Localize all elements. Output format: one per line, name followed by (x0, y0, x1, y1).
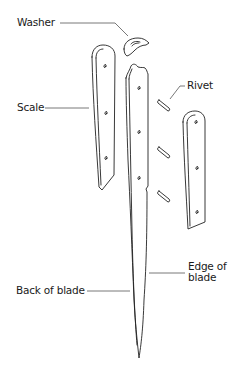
rivet-1 (158, 100, 170, 111)
washer-label: Washer (17, 17, 55, 28)
rivet-3 (158, 191, 170, 202)
scale-label: Scale (17, 102, 44, 113)
rivet-2 (158, 147, 170, 158)
rivet-leader (170, 86, 185, 99)
left-scale (92, 45, 115, 190)
knife-exploded-diagram (0, 0, 239, 376)
right-scale (183, 111, 205, 229)
rivet-label: Rivet (187, 80, 213, 91)
washer (124, 38, 149, 56)
back-of-blade-label: Back of blade (16, 285, 85, 296)
edge-of-blade-label: Edge of blade (188, 261, 226, 283)
blade (126, 64, 148, 358)
washer-leader (60, 23, 128, 36)
rivets (158, 100, 170, 202)
